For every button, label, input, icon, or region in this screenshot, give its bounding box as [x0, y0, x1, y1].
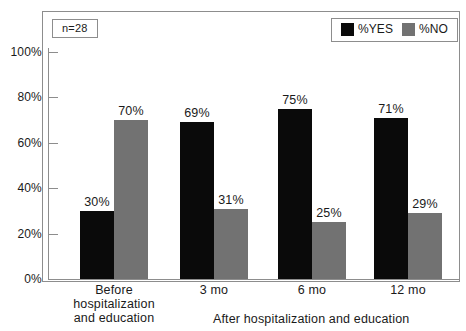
plot-area: 30%70%69%31%75%25%71%29%: [48, 52, 459, 279]
bar-value-label: 30%: [77, 196, 117, 209]
sample-size-badge: n=28: [52, 19, 98, 38]
bar-no: [214, 209, 248, 279]
legend-item-yes: %YES: [341, 23, 393, 36]
y-tick-label-60: 60%: [0, 137, 42, 149]
bar-no: [312, 222, 346, 279]
y-tick-label-0: 0%: [0, 273, 42, 285]
x-label-line: 12 mo: [378, 283, 438, 297]
x-axis-label: 12 mo: [378, 283, 438, 297]
y-tick-label-100: 100%: [0, 46, 42, 58]
legend-item-no: %NO: [402, 23, 448, 36]
x-axis-label: Beforehospitalizationand education: [62, 283, 166, 325]
x-axis-group-label: After hospitalization and education: [213, 312, 409, 326]
black-swatch-icon: [341, 23, 354, 36]
y-tick-label-20: 20%: [0, 228, 42, 240]
x-label-line: hospitalization: [62, 297, 166, 311]
bar-group: 75%25%: [278, 52, 346, 279]
chart-root: n=28 %YES %NO 0%20%40%60%80%100% 30%70%6…: [0, 0, 466, 331]
bar-yes: [80, 211, 114, 279]
bar-value-label: 29%: [405, 198, 445, 211]
bar-yes: [278, 109, 312, 279]
legend-label-no: %NO: [419, 23, 448, 36]
bar-no: [408, 213, 442, 279]
legend-label-yes: %YES: [358, 23, 393, 36]
bar-value-label: 75%: [275, 94, 315, 107]
bar-value-label: 70%: [111, 105, 151, 118]
chart-legend: %YES %NO: [331, 18, 458, 42]
x-axis-line: [48, 279, 459, 280]
x-label-line: 3 mo: [184, 283, 244, 297]
bar-value-label: 69%: [177, 107, 217, 120]
sample-size-label: n=28: [62, 22, 88, 34]
x-label-line: 6 mo: [282, 283, 342, 297]
x-axis-label: 3 mo: [184, 283, 244, 297]
gray-swatch-icon: [402, 23, 415, 36]
x-axis-label: 6 mo: [282, 283, 342, 297]
bar-yes: [374, 118, 408, 279]
y-tick-label-80: 80%: [0, 91, 42, 103]
bar-group: 71%29%: [374, 52, 442, 279]
bar-group: 30%70%: [80, 52, 148, 279]
x-label-line: Before: [62, 283, 166, 297]
bar-value-label: 31%: [211, 194, 251, 207]
y-tick-label-40: 40%: [0, 182, 42, 194]
bar-no: [114, 120, 148, 279]
x-label-line: and education: [62, 311, 166, 325]
bar-value-label: 71%: [371, 103, 411, 116]
bar-yes: [180, 122, 214, 279]
bar-group: 69%31%: [180, 52, 248, 279]
bar-value-label: 25%: [309, 207, 349, 220]
